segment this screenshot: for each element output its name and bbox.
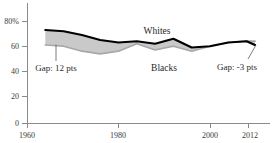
x-tick-label-1960: 1960 xyxy=(19,131,35,140)
series-label-blacks: Blacks xyxy=(151,63,177,73)
y-tick-label-20: 20 xyxy=(11,92,19,101)
series-label-whites: Whites xyxy=(144,26,171,36)
x-tick-label-1980: 1980 xyxy=(110,131,126,140)
turnout-gap-area-chart: 80% 60 40 20 0 1960 1980 2000 2012 White… xyxy=(0,0,273,143)
gap-right-leader-line xyxy=(248,45,256,59)
y-tick-label-80: 80% xyxy=(4,17,19,26)
y-tick-label-40: 40 xyxy=(11,67,19,76)
gap-right-annotation: Gap: -3 pts xyxy=(217,62,257,72)
y-tick-label-60: 60 xyxy=(11,42,19,51)
gap-left-annotation: Gap: 12 pts xyxy=(35,63,77,73)
y-tick-label-0: 0 xyxy=(15,119,19,128)
x-tick-label-2000: 2000 xyxy=(202,131,218,140)
chart-container: 80% 60 40 20 0 1960 1980 2000 2012 White… xyxy=(0,0,273,143)
x-tick-label-2012: 2012 xyxy=(242,131,258,140)
